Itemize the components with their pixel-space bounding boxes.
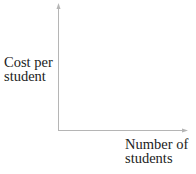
y-axis-label-line1: Cost per bbox=[4, 55, 53, 69]
y-axis-label: Cost per student bbox=[4, 55, 53, 83]
x-axis-arrow-icon bbox=[182, 129, 188, 133]
y-axis-arrow-icon bbox=[57, 3, 61, 9]
x-axis-label-line2: students bbox=[125, 151, 188, 165]
y-axis-label-line2: student bbox=[4, 69, 53, 83]
x-axis-label: Number of students bbox=[125, 137, 188, 165]
x-axis-label-line1: Number of bbox=[125, 137, 188, 151]
